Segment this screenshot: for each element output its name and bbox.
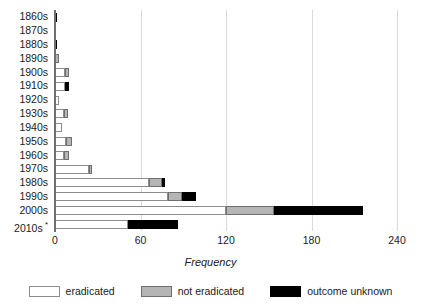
bar-segment-not-eradicated-1900s xyxy=(65,68,69,77)
bar-1960s xyxy=(55,151,69,160)
legend-label-1: not eradicated xyxy=(178,285,245,297)
legend-item-not-eradicated[interactable]: not eradicated xyxy=(141,285,245,297)
y-axis-label-1990s: 1990s xyxy=(19,191,48,202)
bar-segment-not-eradicated-1960s xyxy=(64,151,70,160)
y-axis-label-1870s: 1870s xyxy=(19,25,48,36)
legend-item-eradicated[interactable]: eradicated xyxy=(29,285,115,297)
y-axis-label-1920s: 1920s xyxy=(19,94,48,105)
bar-1930s xyxy=(55,109,68,118)
legend-label-0: eradicated xyxy=(66,285,115,297)
stacked-bar-chart: 1860s1870s1880s1890s1900s1910s1920s1930s… xyxy=(0,0,421,307)
y-axis-label-1950s: 1950s xyxy=(19,136,48,147)
x-tick-60: 60 xyxy=(135,234,147,246)
bar-1910s xyxy=(55,82,69,91)
bar-segment-eradicated-1940s xyxy=(55,123,62,132)
x-tick-120: 120 xyxy=(217,234,235,246)
bar-1950s xyxy=(55,137,72,146)
x-axis-title: Frequency xyxy=(0,256,421,268)
bar-segment-not-eradicated-1990s xyxy=(168,192,182,201)
gray-swatch xyxy=(141,286,172,297)
bar-segment-outcome-unknown-1980s xyxy=(162,178,165,187)
bar-segment-eradicated-1930s xyxy=(55,109,64,118)
bar-1900s xyxy=(55,68,69,77)
bar-segment-not-eradicated-1930s xyxy=(64,109,68,118)
y-axis-label-2010s: 2010s * xyxy=(14,219,48,234)
bar-1990s xyxy=(55,192,196,201)
y-axis-label-1900s: 1900s xyxy=(19,67,48,78)
bar-segment-eradicated-1950s xyxy=(55,137,66,146)
bar-segment-not-eradicated-1950s xyxy=(66,137,72,146)
bar-1980s xyxy=(55,178,165,187)
x-tick-0: 0 xyxy=(52,234,58,246)
y-axis-label-1860s: 1860s xyxy=(19,11,48,22)
white-outlined-swatch xyxy=(29,286,60,297)
bar-1920s xyxy=(55,96,59,105)
bar-segment-eradicated-1900s xyxy=(55,68,65,77)
y-axis-label-1890s: 1890s xyxy=(19,53,48,64)
black-swatch xyxy=(270,286,301,297)
bar-2000s xyxy=(55,206,363,215)
y-axis-label-1980s: 1980s xyxy=(19,177,48,188)
bar-segment-outcome-unknown-1990s xyxy=(182,192,196,201)
y-axis-label-1910s: 1910s xyxy=(19,80,48,91)
bar-segment-outcome-unknown-2010s xyxy=(128,220,178,229)
y-axis-label-1970s: 1970s xyxy=(19,163,48,174)
bar-segment-eradicated-1910s xyxy=(55,82,65,91)
y-axis-label-1940s: 1940s xyxy=(19,122,48,133)
bar-segment-eradicated-2000s xyxy=(55,206,226,215)
bar-segment-eradicated-1960s xyxy=(55,151,64,160)
x-tick-240: 240 xyxy=(388,234,406,246)
bar-segment-not-eradicated-1890s xyxy=(55,54,59,63)
bar-segment-eradicated-1920s xyxy=(55,96,59,105)
plot-area xyxy=(55,10,398,231)
bar-segment-not-eradicated-1970s xyxy=(89,165,92,174)
chart-legend: eradicatednot eradicatedoutcome unknown xyxy=(0,281,421,301)
bar-segment-eradicated-1990s xyxy=(55,192,168,201)
y-axis-label-1880s: 1880s xyxy=(19,39,48,50)
bar-segment-not-eradicated-2000s xyxy=(226,206,274,215)
footnote-marker: * xyxy=(43,220,48,229)
x-tick-180: 180 xyxy=(303,234,321,246)
bar-rows xyxy=(55,10,398,231)
bar-segment-outcome-unknown-2000s xyxy=(274,206,362,215)
bar-segment-eradicated-2010s xyxy=(55,220,128,229)
legend-label-2: outcome unknown xyxy=(307,285,392,297)
bar-1970s xyxy=(55,165,92,174)
y-axis-line xyxy=(54,10,56,232)
bar-2010s xyxy=(55,220,178,229)
bar-1940s xyxy=(55,123,62,132)
y-axis-label-1930s: 1930s xyxy=(19,108,48,119)
bar-segment-outcome-unknown-1910s xyxy=(65,82,69,91)
y-axis-label-1960s: 1960s xyxy=(19,150,48,161)
x-axis-tick-labels: 060120180240 xyxy=(0,234,421,250)
y-axis-labels: 1860s1870s1880s1890s1900s1910s1920s1930s… xyxy=(0,10,52,231)
bar-segment-eradicated-1970s xyxy=(55,165,89,174)
bar-segment-not-eradicated-1980s xyxy=(149,178,162,187)
y-axis-label-2000s: 2000s xyxy=(19,205,48,216)
bar-segment-eradicated-1980s xyxy=(55,178,149,187)
bar-1890s xyxy=(55,54,59,63)
legend-item-outcome-unknown[interactable]: outcome unknown xyxy=(270,285,392,297)
